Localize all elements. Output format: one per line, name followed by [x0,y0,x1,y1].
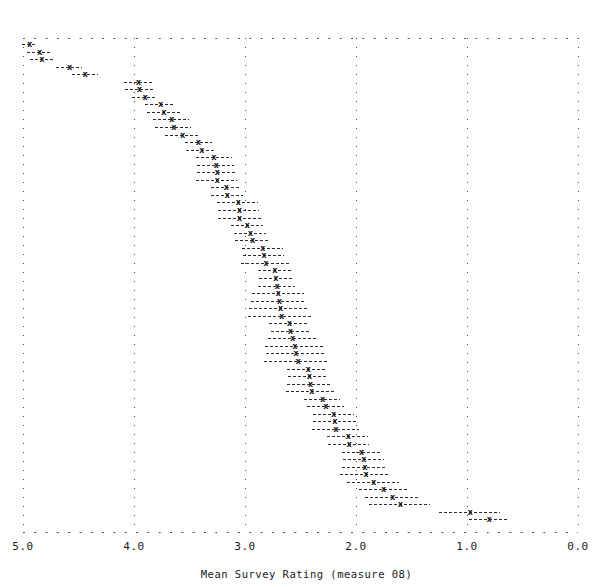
grid-border-top [23,38,578,39]
x-axis-tick-labels: 5.04.03.02.01.00.0 [0,540,613,556]
x-tick-label-0.0: 0.0 [558,540,598,553]
plot-area: xxxxxxxxxxxxxxxxxxxxxxxxxxxxxxxxxxxxxxxx… [23,38,578,533]
data-row: x [23,515,578,524]
caterpillar-plot-figure: xxxxxxxxxxxxxxxxxxxxxxxxxxxxxxxxxxxxxxxx… [0,0,613,587]
point-marker: x [485,514,494,525]
x-tick-label-2.0: 2.0 [336,540,376,553]
x-tick-label-1.0: 1.0 [447,540,487,553]
gridline-x-0.0 [578,38,579,533]
x-axis-title: Mean Survey Rating (measure 08) [0,568,613,580]
x-tick-label-3.0: 3.0 [225,540,265,553]
x-tick-label-5.0: 5.0 [3,540,43,553]
x-tick-label-4.0: 4.0 [114,540,154,553]
grid-border-bottom [23,532,578,533]
